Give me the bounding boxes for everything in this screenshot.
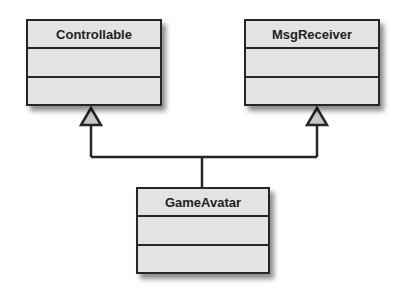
generalization-arrowhead-icon <box>81 108 101 125</box>
attributes-compartment <box>28 47 160 75</box>
class-name: MsgReceiver <box>246 21 378 47</box>
attributes-compartment <box>138 215 268 243</box>
operations-compartment <box>28 76 160 104</box>
class-controllable[interactable]: Controllable <box>26 19 162 106</box>
class-name: Controllable <box>28 21 160 47</box>
generalization-arrowhead-icon <box>307 108 327 125</box>
attributes-compartment <box>246 47 378 75</box>
operations-compartment <box>246 76 378 104</box>
class-name: GameAvatar <box>138 189 268 215</box>
class-msgreceiver[interactable]: MsgReceiver <box>244 19 380 106</box>
operations-compartment <box>138 244 268 272</box>
class-gameavatar[interactable]: GameAvatar <box>136 187 270 274</box>
